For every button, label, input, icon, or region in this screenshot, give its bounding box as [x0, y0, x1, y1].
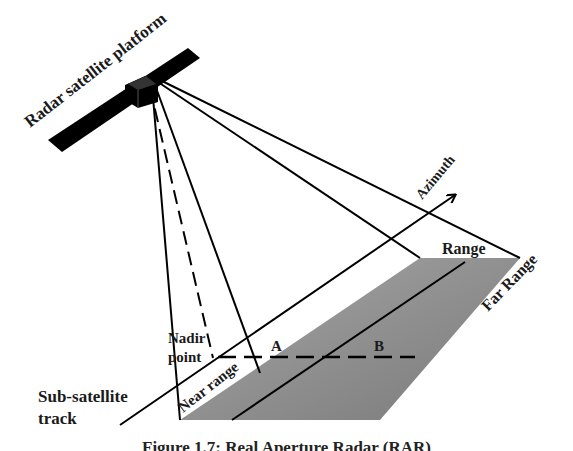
nadir-label-line2: point — [168, 349, 201, 365]
subtrack-label-line1: Sub-satellite — [38, 387, 128, 406]
beam-far-right — [160, 80, 520, 258]
radar-diagram: Radar satellite platform Azimuth Range F… — [0, 0, 573, 451]
azimuth-label: Azimuth — [413, 152, 458, 202]
nadir-label-line1: Nadir — [168, 330, 206, 346]
point-b-label: B — [374, 338, 384, 354]
point-a-label: A — [271, 338, 282, 354]
nadir-dashed-line — [150, 88, 213, 358]
subtrack-label-line2: track — [38, 409, 77, 428]
beam-near-left — [152, 85, 180, 420]
beam-far-left — [158, 82, 420, 258]
figure-caption: Figure 1.7: Real Aperture Radar (RAR) — [0, 437, 573, 451]
range-label: Range — [442, 240, 486, 258]
